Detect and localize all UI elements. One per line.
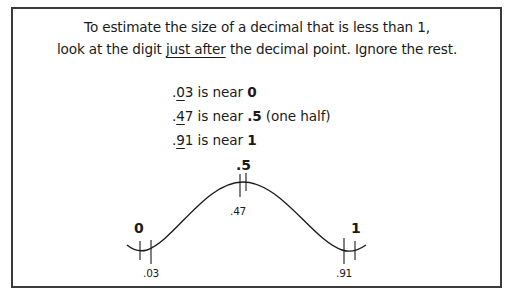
point-label-47: .47	[230, 205, 246, 217]
point-label-03: .03	[143, 267, 159, 279]
landmark-label-1: 1	[351, 220, 361, 236]
hill-curve-diagram	[0, 0, 514, 298]
hill-curve	[127, 182, 366, 251]
point-label-91: .91	[336, 267, 352, 279]
landmark-label-half: .5	[236, 157, 251, 173]
landmark-label-0: 0	[134, 220, 144, 236]
